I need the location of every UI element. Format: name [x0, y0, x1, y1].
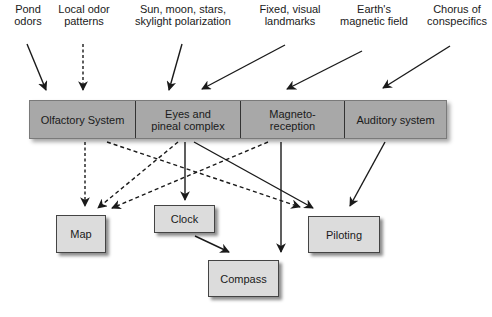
system-label: pineal complex: [151, 120, 224, 132]
output-map-label: Map: [70, 228, 91, 240]
system-olfactory: Olfactory System: [30, 101, 135, 138]
cue-line: skylight polarization: [133, 15, 233, 27]
system-label: reception: [269, 120, 315, 132]
arrow-landmarks: [202, 45, 285, 89]
system-eyes-pineal: Eyes and pineal complex: [135, 101, 240, 138]
cue-line: Pond: [4, 3, 52, 15]
system-label: Eyes and: [151, 108, 224, 120]
cue-line: Chorus of: [422, 3, 492, 15]
cue-line: magnetic field: [334, 15, 414, 27]
output-piloting-box: Piloting: [308, 216, 380, 253]
cue-magnetic-field: Earth's magnetic field: [334, 3, 414, 27]
cue-line: patterns: [52, 15, 116, 27]
cue-line: Sun, moon, stars,: [133, 3, 233, 15]
cue-pond-odors: Pond odors: [4, 3, 52, 27]
cue-line: Earth's: [334, 3, 414, 15]
arrow-pond-odors: [27, 44, 46, 90]
system-label-group: Magneto- reception: [269, 108, 315, 132]
system-label-group: Eyes and pineal complex: [151, 108, 224, 132]
cue-local-odor-patterns: Local odor patterns: [52, 3, 116, 27]
system-magnetoreception: Magneto- reception: [240, 101, 344, 138]
system-label: Magneto-: [269, 108, 315, 120]
arrow-eyes-piloting: [194, 142, 313, 208]
arrow-auditory-piloting: [350, 142, 385, 206]
output-piloting-label: Piloting: [326, 229, 362, 241]
arrow-conspecifics: [383, 46, 450, 88]
cue-landmarks: Fixed, visual landmarks: [252, 3, 328, 27]
system-label: Olfactory System: [41, 114, 125, 126]
output-clock-box: Clock: [154, 205, 215, 233]
output-compass-label: Compass: [220, 273, 266, 285]
cue-celestial: Sun, moon, stars, skylight polarization: [133, 3, 233, 27]
arrow-celestial: [169, 44, 182, 90]
output-clock-label: Clock: [171, 213, 199, 225]
cue-line: odors: [4, 15, 52, 27]
arrow-clock-compass: [195, 236, 229, 252]
cue-conspecifics: Chorus of conspecifics: [422, 3, 492, 27]
cue-line: conspecifics: [422, 15, 492, 27]
output-compass-box: Compass: [208, 260, 279, 297]
system-auditory: Auditory system: [344, 101, 446, 138]
system-label: Auditory system: [356, 114, 434, 126]
arrow-eyes-map: [98, 142, 178, 208]
sensory-systems-bar: Olfactory System Eyes and pineal complex…: [29, 100, 447, 139]
cue-line: Fixed, visual: [252, 3, 328, 15]
arrow-magnetic-field: [287, 51, 362, 89]
cue-line: Local odor: [52, 3, 116, 15]
cue-line: landmarks: [252, 15, 328, 27]
output-map-box: Map: [56, 215, 106, 253]
